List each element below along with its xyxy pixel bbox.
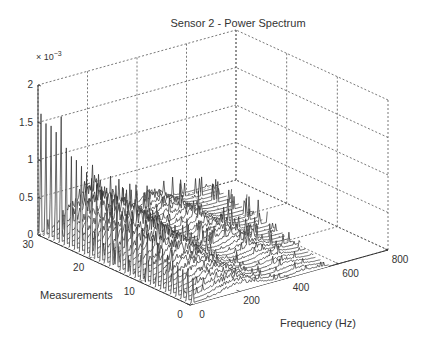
- svg-text:0.5: 0.5: [19, 192, 33, 203]
- svg-text:400: 400: [293, 282, 310, 293]
- svg-text:30: 30: [22, 239, 34, 250]
- svg-text:600: 600: [342, 268, 359, 279]
- svg-text:0: 0: [177, 309, 183, 320]
- z-exponent-label: × 10−3: [36, 50, 62, 62]
- chart-title: Sensor 2 - Power Spectrum: [170, 17, 305, 29]
- svg-text:800: 800: [392, 254, 409, 265]
- svg-text:1.5: 1.5: [19, 117, 33, 128]
- svg-text:× 10−3: × 10−3: [36, 50, 62, 62]
- power-spectrum-chart: Sensor 2 - Power Spectrum × 10−3 00.511.…: [0, 0, 426, 343]
- svg-text:1: 1: [27, 154, 33, 165]
- svg-text:10: 10: [124, 286, 136, 297]
- x-axis-label: Frequency (Hz): [280, 317, 356, 329]
- svg-text:20: 20: [73, 262, 85, 273]
- svg-text:2: 2: [27, 79, 33, 90]
- svg-text:0: 0: [199, 309, 205, 320]
- svg-text:200: 200: [243, 295, 260, 306]
- spectra-series: [38, 114, 329, 305]
- y-axis-label: Measurements: [40, 289, 113, 301]
